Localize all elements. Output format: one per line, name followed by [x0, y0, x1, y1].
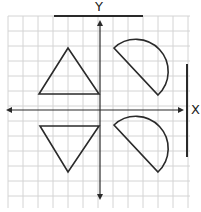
lower-triangle [40, 126, 99, 172]
arrow-left-icon [6, 107, 12, 113]
y-axis-label: Y [95, 0, 103, 13]
lower-semicircle [114, 116, 168, 172]
arrow-right-icon [178, 107, 184, 113]
coordinate-diagram [0, 0, 201, 212]
grid-lines [8, 16, 190, 208]
x-axis-label: X [191, 103, 200, 116]
upper-triangle [39, 48, 99, 94]
upper-semicircle [114, 39, 168, 95]
